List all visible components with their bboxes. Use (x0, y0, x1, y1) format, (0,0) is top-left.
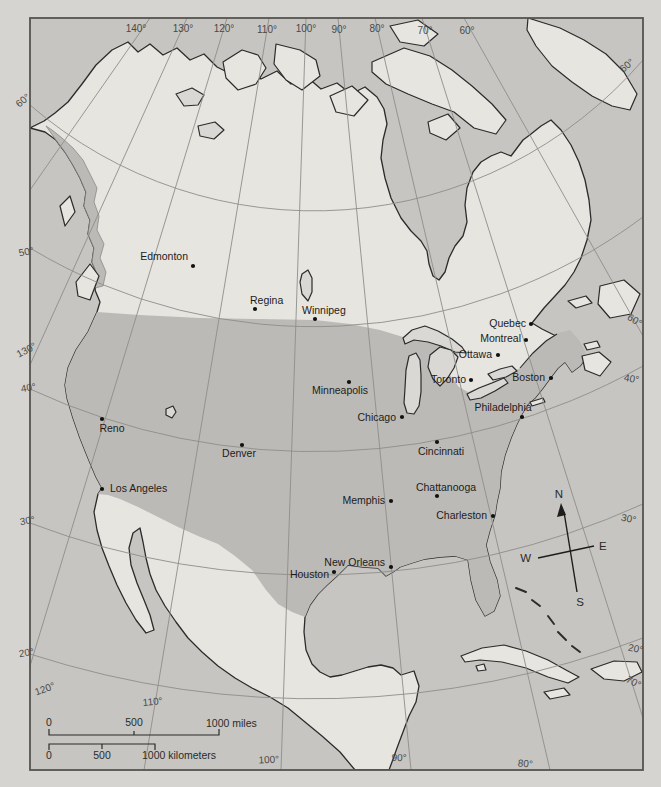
km-1000-label: 1000 kilometers (142, 749, 216, 761)
city-dot (100, 417, 104, 421)
city-dot (524, 338, 528, 342)
city-label: Memphis (342, 494, 385, 506)
compass-n-label: N (555, 488, 563, 500)
city-dot (491, 514, 495, 518)
grat-label: 100° (296, 23, 317, 34)
grat-label: 80° (369, 23, 384, 34)
city-label: Philadelphia (474, 401, 531, 413)
city-dot (313, 317, 317, 321)
city-dot (332, 570, 336, 574)
city-dot (191, 264, 195, 268)
scanned-map-page: 140° 130° 120° 110° 100° 90° 80° 70° 60°… (0, 0, 661, 787)
grat-label: 110° (257, 24, 277, 35)
city-new-orleans: New Orleans (324, 556, 393, 569)
city-label: Edmonton (140, 250, 188, 262)
city-label: Ottawa (459, 348, 492, 360)
city-label: New Orleans (324, 556, 385, 568)
city-dot (400, 415, 404, 419)
grat-label: 60° (459, 25, 474, 36)
city-dot (469, 378, 473, 382)
city-montreal: Montreal (480, 332, 528, 344)
city-label: Denver (222, 447, 256, 459)
grat-label: 70° (417, 25, 432, 36)
city-dot (253, 307, 257, 311)
compass-s-label: S (576, 596, 584, 608)
city-label: Reno (99, 422, 124, 434)
miles-1000-label: 1000 miles (206, 717, 257, 729)
city-dot (520, 415, 524, 419)
city-label: Montreal (480, 332, 521, 344)
grat-label: 130° (173, 23, 194, 34)
city-label: Quebec (489, 317, 526, 329)
grat-label: 100° (258, 753, 279, 765)
city-label: Cincinnati (418, 445, 464, 457)
grat-label: 90° (331, 24, 346, 35)
compass-w-label: W (520, 552, 531, 564)
km-0-label: 0 (46, 749, 52, 761)
grat-label: 110° (142, 695, 163, 708)
city-label: Minneapolis (312, 384, 368, 396)
city-dot (529, 322, 533, 326)
city-dot (496, 353, 500, 357)
city-label: Chattanooga (416, 481, 476, 493)
city-dot (100, 487, 104, 491)
city-dot (435, 494, 439, 498)
grat-label: 120° (214, 23, 235, 34)
grat-label: 140° (126, 23, 147, 34)
city-label: Charleston (436, 509, 487, 521)
km-500-label: 500 (93, 749, 111, 761)
city-dot (389, 499, 393, 503)
city-label: Houston (290, 568, 329, 580)
city-dot (549, 376, 553, 380)
city-label: Toronto (431, 373, 466, 385)
grat-label: 90° (391, 752, 406, 764)
city-label: Boston (512, 371, 545, 383)
city-label: Winnipeg (302, 304, 346, 316)
miles-0-label: 0 (46, 716, 52, 728)
city-charleston: Charleston (436, 509, 495, 521)
city-label: Chicago (357, 411, 396, 423)
north-america-map: 140° 130° 120° 110° 100° 90° 80° 70° 60°… (0, 0, 661, 787)
city-los-angeles: Los Angeles (100, 482, 167, 494)
compass-e-label: E (599, 540, 607, 552)
city-dot (389, 565, 393, 569)
city-label: Los Angeles (110, 482, 167, 494)
grat-label: 80° (517, 757, 533, 770)
city-dot (435, 440, 439, 444)
city-label: Regina (250, 294, 283, 306)
isle-of-youth (476, 664, 486, 671)
miles-500-label: 500 (125, 716, 143, 728)
